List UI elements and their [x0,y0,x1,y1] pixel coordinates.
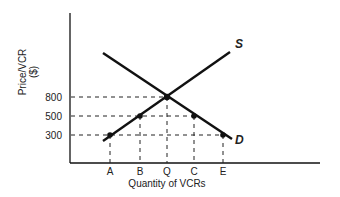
x-tick-e: E [220,166,227,177]
y-tick-800: 800 [45,92,62,103]
supply-demand-chart: S D 800 500 300 A B Q C E Quantity of VC… [0,0,340,197]
x-axis-title: Quantity of VCRs [128,178,205,189]
x-tick-b: B [137,166,144,177]
svg-text:($): ($) [28,66,39,78]
x-tick-a: A [107,166,114,177]
supply-label: S [235,37,243,51]
vertical-guides [110,97,223,163]
x-tick-q: Q [163,166,171,177]
y-tick-300: 300 [45,130,62,141]
horizontal-guides [71,97,223,135]
x-tick-c: C [190,166,197,177]
y-axis-title: Price/VCR ($) [17,49,39,96]
demand-label: D [235,133,244,147]
svg-text:Price/VCR: Price/VCR [17,49,28,96]
y-tick-500: 500 [45,111,62,122]
